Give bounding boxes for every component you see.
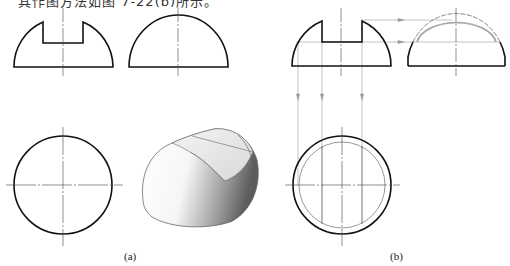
figure-b (285, 8, 505, 246)
projection-lines (296, 19, 500, 186)
3d-rendering (142, 129, 258, 227)
engineering-drawing (0, 0, 510, 266)
figure-label-a: (a) (124, 250, 136, 262)
side-view-a (129, 8, 228, 76)
top-view-a (6, 127, 123, 246)
figure-label-b: (b) (390, 250, 403, 262)
figure-a (6, 8, 258, 246)
top-view-b (285, 127, 400, 246)
front-view-a (14, 8, 113, 76)
